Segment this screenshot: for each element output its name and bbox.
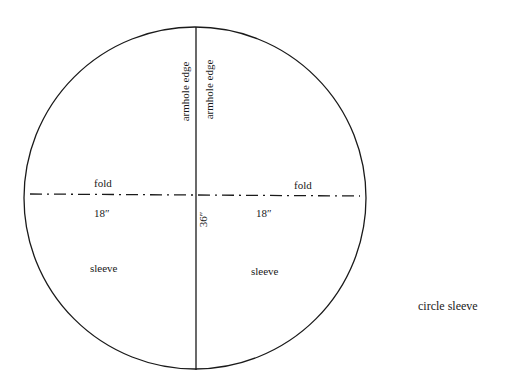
diameter-label: 36″	[198, 209, 209, 231]
fold-label-right: fold	[294, 180, 312, 191]
circle-sleeve-pattern	[0, 0, 515, 389]
fold-line	[30, 194, 360, 196]
armhole-edge-label-left: armhole edge	[180, 57, 191, 127]
radius-label-right: 18″	[256, 208, 272, 219]
armhole-edge-label-right: armhole edge	[204, 55, 215, 125]
radius-label-left: 18″	[94, 208, 110, 219]
diagram-caption: circle sleeve	[418, 300, 478, 312]
sleeve-label-right: sleeve	[251, 266, 278, 277]
sleeve-circle-outline	[24, 27, 366, 369]
sleeve-label-left: sleeve	[90, 263, 117, 274]
fold-label-left: fold	[94, 178, 112, 189]
